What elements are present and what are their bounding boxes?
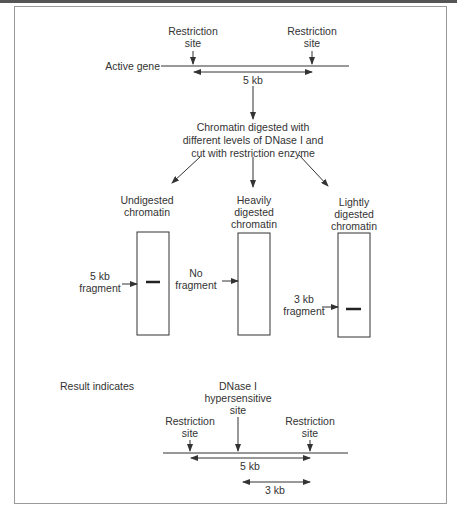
marker-label-2: fragment xyxy=(283,305,325,317)
restriction-site-right-label-2: site xyxy=(304,37,321,49)
lane-title-1: Heavily xyxy=(237,194,272,206)
lane-title-3: chromatin xyxy=(331,220,377,232)
marker-label-2: fragment xyxy=(79,282,121,294)
process-line-2: different levels of DNase I and xyxy=(183,134,324,146)
restriction-site-right-label: Restriction xyxy=(287,25,337,37)
restriction-left-label-1: Restriction xyxy=(165,415,215,427)
process-line-1: Chromatin digested with xyxy=(197,121,310,133)
result-section: Result indicates DNase I hypersensitive … xyxy=(60,380,348,496)
result-label: Result indicates xyxy=(60,380,134,392)
restriction-right-label-1: Restriction xyxy=(285,415,335,427)
restriction-right-label-2: site xyxy=(302,427,319,439)
marker-label-1: 3 kb xyxy=(294,293,314,305)
lane-title-2: chromatin xyxy=(124,206,170,218)
dnase-label-1: DNase I xyxy=(219,380,257,392)
restriction-site-left-label: Restriction xyxy=(168,25,218,37)
marker-label-2: fragment xyxy=(175,279,217,291)
gel-lane xyxy=(338,233,370,337)
dnase-label-2: hypersensitive xyxy=(204,392,271,404)
restriction-site-left-label-2: site xyxy=(185,37,202,49)
restriction-left-label-2: site xyxy=(182,427,199,439)
lane-undigested: Undigested chromatin 5 kb fragment xyxy=(79,194,173,335)
branch-arrow-left-icon xyxy=(172,157,200,183)
lane-title-2: digested xyxy=(234,206,274,218)
marker-label-1: 5 kb xyxy=(90,270,110,282)
distance-5kb-label: 5 kb xyxy=(243,74,263,86)
lane-title-3: chromatin xyxy=(231,218,277,230)
lane-title-1: Undigested xyxy=(120,194,173,206)
diagram-canvas: Restriction site Restriction site Active… xyxy=(0,0,457,511)
dnase-label-3: site xyxy=(230,404,247,416)
branch-arrow-right-icon xyxy=(299,155,328,186)
gel-lane xyxy=(238,233,270,335)
lane-lightly-digested: Lightly digested chromatin 3 kb fragment xyxy=(283,196,377,337)
gel-lane xyxy=(137,232,169,335)
distance-5kb-label: 5 kb xyxy=(240,460,260,472)
lane-title-1: Lightly xyxy=(339,196,370,208)
active-gene-label: Active gene xyxy=(105,60,160,72)
active-gene-section: Restriction site Restriction site Active… xyxy=(105,25,349,119)
distance-3kb-label: 3 kb xyxy=(265,484,285,496)
lane-heavily-digested: Heavily digested chromatin No fragment xyxy=(175,194,277,335)
process-description: Chromatin digested with different levels… xyxy=(183,121,324,159)
marker-label-1: No xyxy=(189,267,203,279)
lane-title-2: digested xyxy=(334,208,374,220)
